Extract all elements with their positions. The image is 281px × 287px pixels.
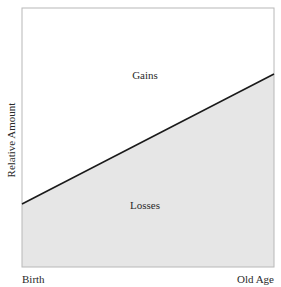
x-label-old-age: Old Age: [237, 273, 274, 285]
x-label-birth: Birth: [22, 273, 45, 285]
gains-label: Gains: [132, 69, 158, 81]
y-axis-label: Relative Amount: [5, 103, 17, 178]
losses-label: Losses: [130, 199, 160, 211]
gains-losses-chart: Gains Losses Relative Amount Birth Old A…: [0, 0, 281, 287]
